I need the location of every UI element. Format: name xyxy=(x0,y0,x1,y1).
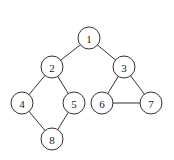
node-6: 6 xyxy=(91,92,113,114)
graph-diagram: 12345678 xyxy=(0,0,174,160)
node-3: 3 xyxy=(113,56,135,78)
node-4: 4 xyxy=(11,92,33,114)
edges-group xyxy=(22,38,151,139)
node-label: 5 xyxy=(71,98,77,110)
node-1: 1 xyxy=(78,27,100,49)
node-label: 4 xyxy=(19,98,25,110)
node-label: 6 xyxy=(99,98,105,110)
node-label: 2 xyxy=(49,62,55,74)
node-8: 8 xyxy=(41,128,63,150)
node-label: 7 xyxy=(148,98,154,110)
node-2: 2 xyxy=(41,56,63,78)
node-7: 7 xyxy=(140,92,162,114)
node-label: 1 xyxy=(86,33,92,45)
node-label: 3 xyxy=(121,62,127,74)
node-5: 5 xyxy=(63,92,85,114)
node-label: 8 xyxy=(49,134,55,146)
